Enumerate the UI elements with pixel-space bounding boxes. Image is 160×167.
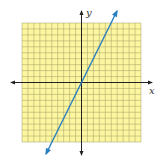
- x-axis-label: x: [149, 86, 155, 96]
- y-axis-label: y: [86, 8, 92, 18]
- coordinate-plane: [0, 0, 160, 167]
